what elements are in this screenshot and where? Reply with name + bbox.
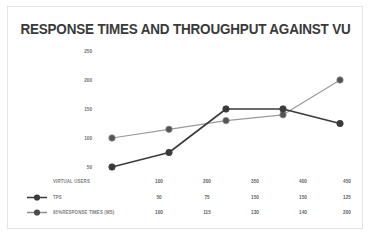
table-row-header: VIRTUAL USERS 100 200 350 400 450 xyxy=(24,175,356,188)
data-point xyxy=(280,106,286,112)
table-cell: 200 xyxy=(329,206,365,219)
page-title: RESPONSE TIMES AND THROUGHPUT AGAINST VU xyxy=(20,21,349,37)
table-cell: 140 xyxy=(285,206,321,219)
table-header-label: VIRTUAL USERS xyxy=(53,175,90,188)
data-point xyxy=(109,164,115,170)
table-cell: 130 xyxy=(237,206,273,219)
table-row-label: 95%RESPONSE TIMES (MS) xyxy=(53,206,114,219)
data-point xyxy=(109,135,115,141)
data-point xyxy=(337,120,343,126)
y-axis-tick: 100 xyxy=(69,135,92,141)
series-tps xyxy=(109,106,343,170)
table-cell: 125 xyxy=(329,191,365,204)
table-cell: 150 xyxy=(285,191,321,204)
table-cell: 100 xyxy=(141,175,177,188)
data-point xyxy=(223,106,229,112)
data-point xyxy=(223,117,229,123)
chart-card: RESPONSE TIMES AND THROUGHPUT AGAINST VU… xyxy=(7,6,363,229)
table-cell: 200 xyxy=(189,175,225,188)
data-point xyxy=(337,77,343,83)
y-axis-tick: 200 xyxy=(69,77,92,83)
table-cell: 350 xyxy=(237,175,273,188)
table-row-tps: TPS 50 75 150 150 125 xyxy=(24,191,356,204)
table-row-label: TPS xyxy=(53,191,62,204)
data-point xyxy=(166,149,172,155)
y-axis-tick: 150 xyxy=(69,106,92,112)
legend-marker-tps xyxy=(26,191,48,204)
plot-area: 250 200 150 100 50 xyxy=(94,51,356,173)
table-cell: 150 xyxy=(237,191,273,204)
data-table: VIRTUAL USERS 100 200 350 400 450 TPS 50… xyxy=(24,175,356,223)
table-cell: 100 xyxy=(141,206,177,219)
line-chart-svg xyxy=(94,51,356,173)
table-cell: 75 xyxy=(189,191,225,204)
table-cell: 400 xyxy=(285,175,321,188)
table-cell: 450 xyxy=(329,175,365,188)
y-axis-tick: 50 xyxy=(69,164,92,170)
legend-marker-response-times xyxy=(26,206,48,219)
table-cell: 50 xyxy=(141,191,177,204)
y-axis-tick: 250 xyxy=(69,48,92,54)
table-row-response-times: 95%RESPONSE TIMES (MS) 100 115 130 140 2… xyxy=(24,206,356,219)
data-point xyxy=(166,126,172,132)
table-cell: 115 xyxy=(189,206,225,219)
